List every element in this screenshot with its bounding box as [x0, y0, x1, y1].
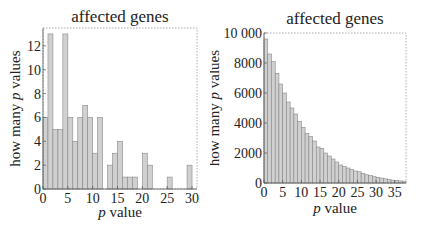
histogram-bar [294, 114, 298, 183]
chart-title: affected genes [71, 7, 168, 26]
histogram-bar [372, 177, 376, 183]
right-histogram: affected genes05101520253035020004000600… [210, 0, 421, 230]
bars [43, 34, 192, 189]
histogram-bar [268, 54, 272, 183]
y-tick-label: 6000 [234, 86, 262, 101]
histogram-bar [63, 34, 68, 189]
histogram-bar [68, 117, 73, 189]
x-tick-label: 5 [64, 191, 71, 206]
histogram-bar [286, 102, 290, 183]
y-tick-label: 2000 [234, 146, 262, 161]
y-tick-label: 10 [27, 63, 41, 78]
histogram-bar [346, 168, 350, 183]
histogram-bar [279, 84, 283, 183]
histogram-bar [48, 34, 53, 189]
histogram-bar [298, 122, 302, 184]
chart-title: affected genes [286, 9, 383, 28]
x-tick-label: 35 [388, 185, 402, 200]
y-tick-label: 8 [34, 87, 41, 102]
histogram-bar [324, 153, 328, 183]
histogram-bar [93, 153, 98, 189]
y-tick-label: 6 [34, 110, 41, 125]
x-tick-label: 20 [332, 185, 346, 200]
histogram-bar [316, 147, 320, 183]
histogram-bar [53, 129, 58, 189]
histogram-bar [354, 171, 358, 183]
x-tick-label: 15 [313, 185, 327, 200]
histogram-bar [187, 165, 192, 189]
x-tick-label: 30 [369, 185, 383, 200]
histogram-bar [328, 156, 332, 183]
y-tick-label: 12 [27, 39, 41, 54]
x-tick-label: 10 [294, 185, 308, 200]
x-tick-label: 25 [160, 191, 174, 206]
histogram-bar [339, 165, 343, 183]
histogram-bar [350, 170, 354, 184]
histogram-bar [331, 159, 335, 183]
histogram-bar [78, 117, 83, 189]
histogram-bar [283, 93, 287, 183]
histogram-bar [357, 172, 361, 183]
y-axis-label: how many p values [210, 50, 222, 166]
x-axis-label: p value [312, 200, 357, 216]
histogram-bar [127, 177, 132, 189]
y-axis-label: how many p values [7, 50, 23, 166]
histogram-bar [342, 167, 346, 184]
histogram-bar [118, 141, 123, 189]
x-tick-label: 5 [279, 185, 286, 200]
histogram-bar [305, 134, 309, 184]
x-tick-label: 25 [350, 185, 364, 200]
histogram-bar [58, 129, 63, 189]
histogram-bar [369, 176, 373, 184]
y-tick-label: 4000 [234, 116, 262, 131]
histogram-bar [387, 180, 391, 183]
histogram-bar [147, 165, 152, 189]
histogram-bar [132, 177, 137, 189]
histogram-bar [88, 117, 93, 189]
y-tick-label: 4 [34, 134, 41, 149]
histogram-bar [376, 177, 380, 183]
histogram-bar [313, 141, 317, 183]
left-histogram: affected genes051015202530024681012p val… [0, 0, 210, 230]
histogram-bar [384, 179, 388, 183]
bars [264, 39, 406, 183]
histogram-bar [290, 108, 294, 183]
histogram-bar [122, 177, 127, 189]
histogram-bar [361, 173, 365, 183]
histogram-bar [73, 141, 78, 189]
x-axis-label: p value [97, 204, 142, 220]
histogram-bar [142, 153, 147, 189]
histogram-bar [98, 117, 103, 189]
y-tick-label: 10 000 [224, 26, 263, 41]
y-tick-label: 0 [255, 176, 262, 191]
histogram-bar [365, 175, 369, 183]
histogram-bar [275, 74, 279, 184]
histogram-bar [167, 177, 172, 189]
histogram-bar [271, 62, 275, 184]
histogram-bar [301, 128, 305, 184]
histogram-bar [108, 165, 113, 189]
histogram-bar [83, 106, 88, 189]
y-tick-label: 0 [34, 182, 41, 197]
histogram-bar [335, 162, 339, 183]
histogram-bar [43, 117, 48, 189]
y-tick-label: 2 [34, 158, 41, 173]
y-tick-label: 8000 [234, 56, 262, 71]
histogram-bar [380, 178, 384, 183]
histogram-bar [391, 180, 395, 183]
histogram-bar [320, 149, 324, 184]
histogram-bar [264, 39, 268, 183]
histogram-bar [113, 153, 118, 189]
histogram-bar [309, 137, 313, 184]
x-tick-label: 30 [185, 191, 199, 206]
